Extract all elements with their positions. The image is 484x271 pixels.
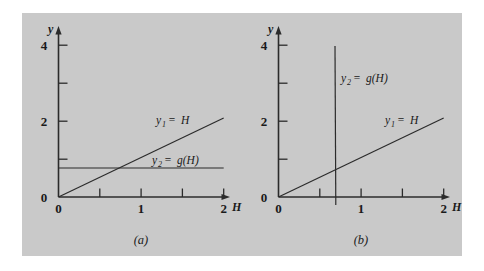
panel-a-y-label-2: 2 xyxy=(41,114,48,129)
panel-b: y H 4 2 0 0 1 2 y 2 = g(H) y 1 = H xyxy=(261,22,462,247)
panel-a-curve-label-y2-sub: 2 xyxy=(158,160,162,169)
panel-b-curve-label-y1-sub: 1 xyxy=(391,120,395,129)
panel-a-x-axis-label: H xyxy=(231,200,242,214)
panel-a-y-axis-arrowhead xyxy=(55,26,61,35)
panel-b-x-label-1: 1 xyxy=(358,201,365,216)
panel-a-curve-label-y1-sub: 1 xyxy=(162,120,166,129)
panel-b-y-label-2: 2 xyxy=(261,114,268,129)
panel-a-y-label-0: 0 xyxy=(41,190,48,205)
panel-b-line-y2 xyxy=(335,46,336,205)
panel-a-line-y1 xyxy=(59,118,224,197)
panel-a-y-axis-label: y xyxy=(46,22,54,36)
panel-b-curve-label-y2: y 2 = g(H) xyxy=(340,72,388,87)
panel-a-curve-label-y1-rhs: H xyxy=(180,114,190,126)
panel-b-curve-label-y1-rhs: H xyxy=(409,114,419,126)
panel-a-curve-label-y2-equals: = xyxy=(164,154,172,166)
panel-b-curve-label-y1-equals: = xyxy=(397,114,405,126)
panel-b-x-label-0: 0 xyxy=(275,201,282,216)
figure-root: y H 4 2 0 0 1 2 y 1 = H y 2 = g(H) xyxy=(0,0,484,271)
panel-a-x-label-0: 0 xyxy=(55,201,62,216)
panel-b-x-axis-label: H xyxy=(451,200,462,214)
panel-b-y-axis-label: y xyxy=(266,22,274,36)
panel-a-curve-label-y1-y: y xyxy=(155,114,162,127)
panel-b-y-axis-arrowhead xyxy=(275,26,281,35)
panel-b-line-y1 xyxy=(279,118,444,197)
figure-svg: y H 4 2 0 0 1 2 y 1 = H y 2 = g(H) xyxy=(0,0,484,271)
panel-a-curve-label-y2-rhs: g(H) xyxy=(177,154,199,167)
panel-b-curve-label-y2-equals: = xyxy=(353,72,361,84)
panel-b-x-axis-arrowhead xyxy=(442,194,451,200)
panel-a: y H 4 2 0 0 1 2 y 1 = H y 2 = g(H) xyxy=(41,22,242,247)
panel-b-y-label-4: 4 xyxy=(261,38,268,53)
panel-a-y-label-4: 4 xyxy=(41,38,48,53)
panel-a-x-label-2: 2 xyxy=(220,201,227,216)
panel-a-curve-label-y2: y 2 = g(H) xyxy=(151,154,199,169)
panel-a-curve-label-y1-equals: = xyxy=(168,114,176,126)
panel-b-curve-label-y1-y: y xyxy=(384,114,391,127)
panel-b-x-label-2: 2 xyxy=(440,201,447,216)
panel-b-curve-label-y2-y: y xyxy=(340,72,347,85)
panel-a-caption: (a) xyxy=(134,233,149,247)
panel-a-curve-label-y2-y: y xyxy=(151,154,158,167)
panel-b-curve-label-y2-sub: 2 xyxy=(347,78,351,87)
panel-b-caption: (b) xyxy=(354,233,369,247)
panel-b-curve-label-y1: y 1 = H xyxy=(384,114,419,129)
panel-b-y-label-0: 0 xyxy=(261,190,268,205)
panel-a-curve-label-y1: y 1 = H xyxy=(155,114,190,129)
panel-a-x-label-1: 1 xyxy=(138,201,145,216)
panel-b-curve-label-y2-rhs: g(H) xyxy=(366,72,388,85)
panel-a-x-axis-arrowhead xyxy=(222,194,231,200)
